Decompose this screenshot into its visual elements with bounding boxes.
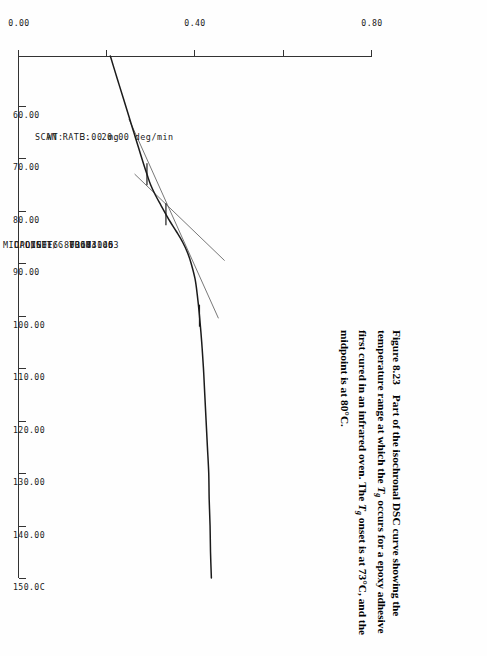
inflection-tangent: [135, 174, 225, 261]
tick-markers: [147, 163, 200, 326]
tangent-lines: [129, 119, 225, 318]
caption-figure-number: Figure 8.23: [391, 330, 403, 385]
dsc-plot-stage: 60.0070.0080.0090.00100.00110.00120.0013…: [0, 0, 487, 656]
scan-rate-text: SCAN RATE: 20.00 deg/min: [35, 132, 174, 144]
caption-tg-symbol-2: T: [357, 504, 369, 511]
figure-page: 60.0070.0080.0090.00100.00110.00120.0013…: [0, 0, 487, 656]
dsc-curve-svg: [0, 0, 487, 656]
onset-baseline-tangent: [129, 119, 219, 318]
dsc-plot: 60.0070.0080.0090.00100.00110.00120.0013…: [0, 0, 487, 656]
tg-midpoint-text: MIDPOINT: 80.67: [3, 240, 92, 252]
